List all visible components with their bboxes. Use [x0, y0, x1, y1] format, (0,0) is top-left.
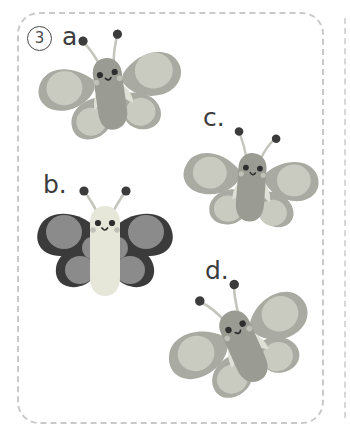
option-label-a: a.	[62, 24, 85, 49]
butterfly-d-graphic	[155, 268, 320, 403]
butterfly-c-graphic	[176, 116, 326, 236]
adjacent-panel-edge	[344, 18, 346, 418]
butterfly-a-graphic	[28, 20, 188, 145]
butterfly-option-c[interactable]	[176, 116, 326, 236]
option-label-d: d.	[205, 258, 229, 283]
option-label-b: b.	[43, 172, 67, 197]
body-b	[90, 206, 120, 296]
butterfly-option-d[interactable]	[155, 268, 320, 403]
worksheet-canvas: 3	[0, 0, 350, 441]
butterfly-option-a[interactable]	[28, 20, 188, 145]
option-label-c: c.	[203, 105, 225, 130]
